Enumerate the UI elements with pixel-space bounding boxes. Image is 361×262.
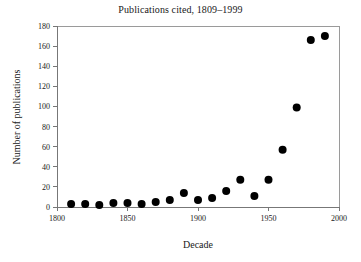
y-tick-label: 60 xyxy=(42,143,50,152)
x-tick-label: 1850 xyxy=(120,214,136,223)
y-axis-title: Number of publications xyxy=(11,69,22,164)
data-point xyxy=(152,198,160,206)
x-tick-label: 1800 xyxy=(49,214,65,223)
data-point xyxy=(81,200,89,208)
y-tick-label: 100 xyxy=(38,102,50,111)
y-tick-label: 140 xyxy=(38,62,50,71)
data-point xyxy=(222,187,230,195)
scatter-plot: 020406080100120140160180 180018501900195… xyxy=(0,0,361,262)
y-tick-label: 20 xyxy=(42,183,50,192)
data-points xyxy=(67,32,329,209)
data-point xyxy=(265,176,273,184)
plot-frame xyxy=(57,26,339,207)
data-point xyxy=(67,200,75,208)
data-point xyxy=(95,201,103,209)
data-point xyxy=(250,192,258,200)
data-point xyxy=(180,189,188,197)
data-point xyxy=(279,146,287,154)
y-tick-label: 160 xyxy=(38,42,50,51)
data-point xyxy=(236,176,244,184)
data-point xyxy=(138,200,146,208)
data-point xyxy=(194,196,202,204)
x-tick-label: 1950 xyxy=(261,214,277,223)
data-point xyxy=(293,103,301,111)
chart-figure: Publications cited, 1809–1999 0204060801… xyxy=(0,0,361,262)
x-tick-label: 2000 xyxy=(331,214,347,223)
y-tick-label: 40 xyxy=(42,163,50,172)
data-point xyxy=(307,36,315,44)
x-axis-title: Decade xyxy=(183,239,214,250)
data-point xyxy=(321,32,329,40)
y-tick-label: 180 xyxy=(38,22,50,31)
y-tick-label: 0 xyxy=(46,203,50,212)
data-point xyxy=(208,194,216,202)
data-point xyxy=(124,199,132,207)
y-tick-label: 120 xyxy=(38,82,50,91)
y-axis-ticks: 020406080100120140160180 xyxy=(38,22,57,212)
data-point xyxy=(109,199,117,207)
data-point xyxy=(166,196,174,204)
x-tick-label: 1900 xyxy=(190,214,206,223)
x-axis-ticks: 18001850190019502000 xyxy=(49,207,347,223)
y-tick-label: 80 xyxy=(42,123,50,132)
